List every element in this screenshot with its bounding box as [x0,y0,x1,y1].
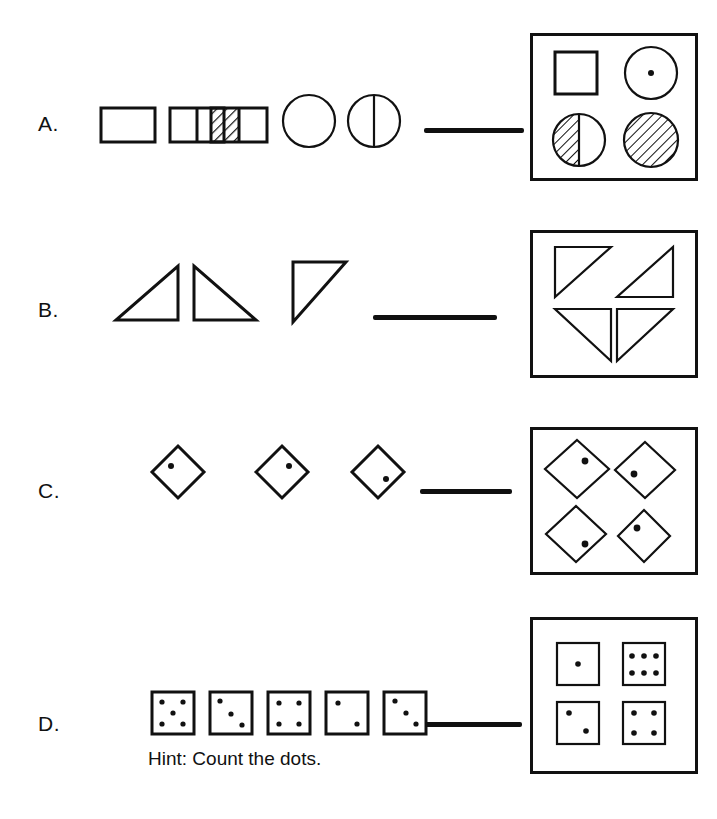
diamond-dot-upper-left [618,510,670,562]
dot-square-2 [557,702,599,744]
rectangle-plain [99,106,157,144]
dot-square-4 [266,690,312,736]
diamond-dot-upper-left [148,442,208,502]
dot-square-5 [150,690,196,736]
worksheet: A. [0,0,717,819]
dot-square-6 [623,643,665,685]
circle-halved [345,92,403,150]
dot-square-3 [208,690,254,736]
triangle-right-angle-top-right [617,247,673,297]
circle-fully-hatched [624,113,678,167]
circle-with-dot [625,47,677,99]
answer-line-a[interactable] [424,128,524,133]
triangle-right-angle-top-left [555,247,611,297]
answer-box-a [530,33,698,181]
answer-line-b[interactable] [373,315,497,320]
dot-square-2 [324,690,370,736]
circle-left-half-hatched [553,114,605,166]
diamond-dot-upper-right [545,440,609,498]
square-plain [555,52,597,94]
answer-box-b [530,230,698,378]
hint-text: Hint: Count the dots. [148,748,321,770]
answer-box-d [530,617,698,774]
triangle-right-angle-top-left [617,309,673,361]
rectangle-half-hatched [209,106,271,144]
row-label-c: C. [38,479,60,503]
answer-line-d[interactable] [425,722,522,727]
diamond-dot-lower-right [348,442,408,502]
diamond-dot-upper-right [252,442,312,502]
triangle-right-angle-bottom-left [188,262,260,324]
row-label-d: D. [38,712,60,736]
dot-square-4 [623,702,665,744]
triangle-right-angle-top-right [555,309,611,361]
diamond-dot-lower-left [615,442,675,498]
dot-square-3 [382,690,428,736]
circle-plain [280,92,338,150]
diamond-dot-lower-right [546,506,606,562]
row-label-b: B. [38,298,59,322]
answer-line-c[interactable] [420,489,512,494]
triangle-right-angle-top-left [288,258,352,328]
answer-box-c [530,427,698,575]
row-label-a: A. [38,112,59,136]
triangle-right-angle-bottom-right [110,262,182,324]
dot-square-1 [557,643,599,685]
